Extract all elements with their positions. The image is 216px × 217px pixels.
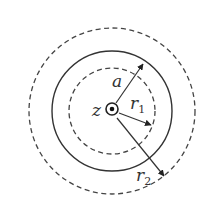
radius-label-a: a (112, 71, 122, 91)
radius-label-r2: r2 (136, 165, 151, 188)
r1-subscript: 1 (138, 103, 145, 116)
out-of-page-dot-icon (106, 103, 118, 115)
axis-label-z: z (91, 100, 102, 120)
radius-label-r1: r1 (130, 93, 145, 116)
radius-r1-arrow (119, 113, 151, 125)
concentric-circle-diagram: z a r1 r2 (0, 0, 216, 217)
r2-subscript: 2 (144, 175, 151, 188)
